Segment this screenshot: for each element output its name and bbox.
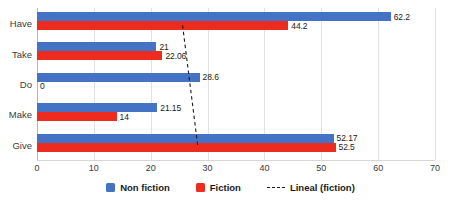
bar-fill: [37, 103, 157, 112]
legend-item-non-fiction[interactable]: Non fiction: [106, 182, 170, 193]
x-tick-label-10: 10: [89, 163, 99, 173]
bar-fill: [37, 12, 391, 21]
bar-fill: [37, 143, 336, 152]
bar-fill: [37, 42, 156, 51]
legend-item-lineal-fiction[interactable]: Lineal (fiction): [267, 182, 355, 193]
x-tick-label-40: 40: [259, 163, 269, 173]
category-label-have: Have: [10, 18, 32, 29]
category-row: Do28.60: [37, 69, 435, 99]
bar-fill: [37, 51, 162, 60]
dashed-line-icon: [267, 187, 285, 188]
legend-swatch-icon: [106, 183, 115, 192]
bar-chart: Have62.244.2Take2122.06Do28.60Make21.151…: [0, 0, 461, 211]
legend-label: Fiction: [210, 182, 241, 193]
category-label-do: Do: [20, 78, 32, 89]
x-tick-label-50: 50: [316, 163, 326, 173]
bar-value-label: 22.06: [165, 51, 186, 61]
category-label-give: Give: [12, 139, 32, 150]
category-row: Take2122.06: [37, 38, 435, 68]
x-axis-line: [37, 160, 435, 161]
bar-fiction-give: 52.5: [37, 143, 336, 152]
category-label-take: Take: [12, 48, 32, 59]
bar-value-label: 28.6: [203, 72, 219, 82]
category-label-make: Make: [9, 109, 32, 120]
bar-value-label: 21.15: [160, 103, 181, 113]
x-tick-label-60: 60: [373, 163, 383, 173]
x-tick-label-70: 70: [430, 163, 440, 173]
bar-fiction-take: 22.06: [37, 51, 162, 60]
bar-fill: [37, 112, 117, 121]
bar-fill: [37, 134, 334, 143]
category-row: Give52.1752.5: [37, 130, 435, 160]
bar-value-label: 62.2: [394, 12, 410, 22]
x-tick-label-0: 0: [34, 163, 39, 173]
legend-label: Lineal (fiction): [290, 182, 355, 193]
chart-legend: Non fictionFictionLineal (fiction): [0, 182, 461, 193]
legend-label: Non fiction: [120, 182, 170, 193]
category-row: Make21.1514: [37, 99, 435, 129]
bar-fiction-make: 14: [37, 112, 117, 121]
bar-nonfiction-have: 62.2: [37, 12, 391, 21]
plot-area: Have62.244.2Take2122.06Do28.60Make21.151…: [37, 8, 435, 160]
bar-value-label: 52.5: [339, 142, 355, 152]
legend-item-fiction[interactable]: Fiction: [196, 182, 241, 193]
bar-fiction-have: 44.2: [37, 21, 288, 30]
bar-value-label: 0: [40, 81, 45, 91]
bar-nonfiction-make: 21.15: [37, 103, 157, 112]
bar-fill: [37, 73, 200, 82]
bar-nonfiction-give: 52.17: [37, 134, 334, 143]
x-tick-label-30: 30: [203, 163, 213, 173]
x-tick-label-20: 20: [146, 163, 156, 173]
category-row: Have62.244.2: [37, 8, 435, 38]
legend-swatch-icon: [196, 183, 205, 192]
bar-nonfiction-do: 28.6: [37, 73, 200, 82]
bar-fill: [37, 21, 288, 30]
gridline-70: [435, 8, 436, 160]
bar-nonfiction-take: 21: [37, 42, 156, 51]
bar-value-label: 14: [120, 112, 129, 122]
bar-value-label: 44.2: [291, 21, 307, 31]
